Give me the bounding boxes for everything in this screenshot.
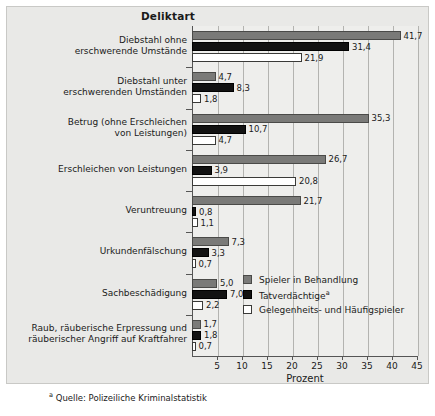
category-label: Sachbeschädigung bbox=[7, 288, 187, 299]
chart-figure: Deliktart Prozent Spieler in Behandlung … bbox=[0, 0, 435, 416]
bar-series2 bbox=[192, 259, 196, 268]
x-tick bbox=[292, 356, 293, 360]
bar-value-label: 10,7 bbox=[249, 125, 268, 134]
bar-value-label: 0,7 bbox=[199, 342, 213, 351]
bar-value-label: 21,9 bbox=[305, 54, 324, 63]
bar-value-label: 0,7 bbox=[199, 260, 213, 269]
chart-title: Deliktart bbox=[108, 10, 228, 22]
bar-series1 bbox=[192, 290, 227, 299]
legend-item-spieler-in-behandlung: Spieler in Behandlung bbox=[243, 272, 404, 287]
bar-value-label: 35,3 bbox=[372, 114, 391, 123]
x-tick bbox=[217, 356, 218, 360]
x-tick bbox=[267, 356, 268, 360]
y-tick bbox=[186, 150, 192, 151]
x-tick bbox=[342, 356, 343, 360]
x-tick bbox=[317, 356, 318, 360]
bar-series2 bbox=[192, 218, 198, 227]
y-tick bbox=[186, 109, 192, 110]
bar-series2 bbox=[192, 177, 296, 186]
chart-legend: Spieler in Behandlung Tatverdächtigea Ge… bbox=[243, 272, 404, 317]
legend-swatch-icon-series1 bbox=[243, 290, 252, 299]
bar-series0 bbox=[192, 320, 201, 329]
y-tick bbox=[186, 67, 192, 68]
bar-series2 bbox=[192, 94, 201, 103]
bar-series2 bbox=[192, 53, 302, 62]
bar-series2 bbox=[192, 136, 216, 145]
legend-label-series0: Spieler in Behandlung bbox=[259, 275, 358, 285]
bar-series1 bbox=[192, 83, 234, 92]
x-tick-label: 45 bbox=[402, 361, 432, 371]
x-tick bbox=[417, 356, 418, 360]
x-tick bbox=[392, 356, 393, 360]
legend-swatch-icon-series0 bbox=[243, 275, 252, 284]
category-label: Veruntreuung bbox=[7, 205, 187, 216]
legend-item-tatverdaechtige: Tatverdächtigea bbox=[243, 287, 404, 302]
bar-value-label: 31,4 bbox=[352, 43, 371, 52]
bar-series2 bbox=[192, 301, 203, 310]
x-axis-line bbox=[192, 356, 418, 357]
bar-value-label: 7,0 bbox=[230, 290, 244, 299]
x-tick bbox=[367, 356, 368, 360]
bar-series0 bbox=[192, 279, 217, 288]
category-label: Erschleichen von Leistungen bbox=[7, 164, 187, 175]
category-label: Diebstahl untererschwerenden Umständen bbox=[7, 76, 187, 98]
bar-value-label: 3,3 bbox=[212, 249, 226, 258]
bar-value-label: 2,2 bbox=[206, 301, 220, 310]
bar-value-label: 8,3 bbox=[237, 84, 251, 93]
bar-value-label: 4,7 bbox=[219, 136, 233, 145]
bar-series0 bbox=[192, 196, 301, 205]
bar-value-label: 21,7 bbox=[304, 197, 323, 206]
footnote-marker: a bbox=[49, 391, 53, 399]
chart-footnote: a Quelle: Polizeiliche Kriminalstatistik bbox=[0, 391, 256, 403]
gridline bbox=[418, 26, 419, 356]
bar-value-label: 4,7 bbox=[219, 73, 233, 82]
category-label: Raub, räuberische Erpressung undräuberis… bbox=[7, 323, 187, 345]
bar-series1 bbox=[192, 331, 201, 340]
bar-series0 bbox=[192, 155, 326, 164]
bar-value-label: 3,9 bbox=[215, 166, 229, 175]
bar-series2 bbox=[192, 342, 196, 351]
bar-value-label: 7,3 bbox=[232, 238, 246, 247]
y-tick bbox=[186, 315, 192, 316]
y-tick bbox=[186, 232, 192, 233]
bar-series0 bbox=[192, 114, 369, 123]
bar-series0 bbox=[192, 237, 229, 246]
bar-value-label: 20,8 bbox=[299, 177, 318, 186]
bar-series1 bbox=[192, 125, 246, 134]
bar-series1 bbox=[192, 42, 349, 51]
x-tick bbox=[242, 356, 243, 360]
x-axis-label: Prozent bbox=[192, 373, 418, 384]
category-label: Diebstahl ohneerschwerende Umstände bbox=[7, 35, 187, 57]
legend-swatch-icon-series2 bbox=[243, 305, 252, 314]
bar-series1 bbox=[192, 207, 196, 216]
bar-series1 bbox=[192, 248, 209, 257]
bar-value-label: 41,7 bbox=[404, 32, 423, 41]
category-label: Urkundenfälschung bbox=[7, 246, 187, 257]
bar-value-label: 0,8 bbox=[199, 208, 213, 217]
bar-value-label: 1,1 bbox=[201, 219, 215, 228]
legend-item-gelegenheits-und-haeufigspieler: Gelegenheits- und Häufigspieler bbox=[243, 302, 404, 317]
y-tick bbox=[186, 191, 192, 192]
bar-value-label: 1,8 bbox=[204, 331, 218, 340]
legend-label-series2: Gelegenheits- und Häufigspieler bbox=[259, 305, 404, 315]
legend-label-series1: Tatverdächtigea bbox=[259, 289, 330, 301]
y-tick bbox=[186, 274, 192, 275]
bar-value-label: 5,0 bbox=[220, 279, 234, 288]
category-label: Betrug (ohne Erschleichenvon Leistungen) bbox=[7, 117, 187, 139]
bar-value-label: 1,8 bbox=[204, 95, 218, 104]
bar-value-label: 1,7 bbox=[204, 320, 218, 329]
footnote-marker-legend: a bbox=[326, 289, 330, 297]
bar-series1 bbox=[192, 166, 212, 175]
bar-series0 bbox=[192, 31, 401, 40]
bar-value-label: 26,7 bbox=[329, 155, 348, 164]
bar-series0 bbox=[192, 72, 216, 81]
